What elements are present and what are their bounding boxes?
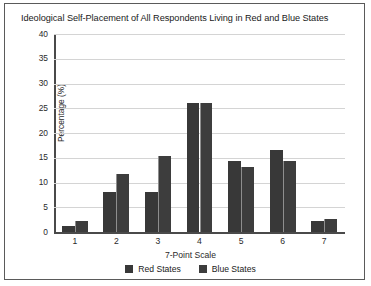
x-axis-label: 7-Point Scale bbox=[5, 250, 371, 260]
bar-group bbox=[270, 34, 296, 232]
y-tick-label: 5 bbox=[8, 202, 48, 212]
bar-group bbox=[311, 34, 337, 232]
bar-red-states-2[interactable] bbox=[103, 192, 116, 232]
bar-blue-states-7[interactable] bbox=[324, 219, 337, 232]
bar-red-states-5[interactable] bbox=[228, 161, 241, 232]
legend-item-red-states[interactable]: Red States bbox=[125, 264, 181, 274]
x-tick-label: 2 bbox=[96, 236, 136, 246]
y-tick-label: 30 bbox=[8, 78, 48, 88]
bar-red-states-7[interactable] bbox=[311, 221, 324, 232]
x-tick-label: 1 bbox=[55, 236, 95, 246]
plot-area bbox=[54, 34, 345, 232]
legend-label: Blue States bbox=[212, 264, 256, 274]
x-tick-label: 5 bbox=[221, 236, 261, 246]
bar-red-states-6[interactable] bbox=[270, 150, 283, 232]
chart-frame: Ideological Self-Placement of All Respon… bbox=[4, 3, 365, 280]
legend-swatch-icon bbox=[125, 265, 133, 273]
bar-blue-states-4[interactable] bbox=[200, 103, 213, 232]
y-tick-label: 20 bbox=[8, 128, 48, 138]
legend-item-blue-states[interactable]: Blue States bbox=[199, 264, 256, 274]
y-tick-label: 15 bbox=[8, 152, 48, 162]
y-tick-label: 10 bbox=[8, 177, 48, 187]
x-tick-label: 4 bbox=[180, 236, 220, 246]
chart-title: Ideological Self-Placement of All Respon… bbox=[21, 13, 328, 23]
x-tick-label: 6 bbox=[263, 236, 303, 246]
bar-group bbox=[103, 34, 129, 232]
x-axis-line bbox=[54, 232, 345, 234]
bar-blue-states-6[interactable] bbox=[283, 161, 296, 232]
bar-blue-states-3[interactable] bbox=[158, 156, 171, 232]
y-tick-label: 35 bbox=[8, 53, 48, 63]
bar-blue-states-1[interactable] bbox=[75, 221, 88, 232]
chart-legend: Red StatesBlue States bbox=[5, 264, 371, 274]
x-tick-label: 3 bbox=[138, 236, 178, 246]
bar-red-states-4[interactable] bbox=[187, 103, 200, 232]
y-tick-label: 0 bbox=[8, 227, 48, 237]
x-tick-label: 7 bbox=[304, 236, 344, 246]
bar-group bbox=[62, 34, 88, 232]
bar-group bbox=[187, 34, 213, 232]
bar-red-states-3[interactable] bbox=[145, 192, 158, 232]
y-tick-label: 40 bbox=[8, 29, 48, 39]
bar-group bbox=[228, 34, 254, 232]
bar-blue-states-5[interactable] bbox=[241, 167, 254, 232]
bar-group bbox=[145, 34, 171, 232]
legend-swatch-icon bbox=[199, 265, 207, 273]
bar-red-states-1[interactable] bbox=[62, 226, 75, 232]
bar-blue-states-2[interactable] bbox=[116, 174, 129, 232]
y-tick-label: 25 bbox=[8, 103, 48, 113]
legend-label: Red States bbox=[138, 264, 181, 274]
